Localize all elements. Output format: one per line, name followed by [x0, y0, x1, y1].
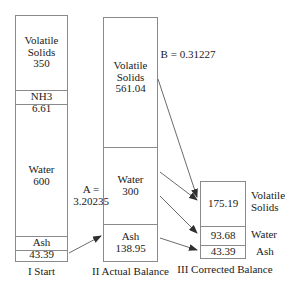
bar3-caption-line1: III Corrected [177, 263, 234, 275]
bar1-volatile-solids-label-line1: Volatile [24, 35, 58, 47]
bar1-divider-nh3-water [15, 104, 68, 105]
bar3-volatile-solids-value: 175.19 [208, 198, 238, 210]
bar3-volatile-solids-segment: 175.19 [200, 181, 246, 226]
bar2-volatile-solids-segment: Volatile Solids 561.04 [103, 50, 158, 105]
arrow-bar2-water-to-bar3-water [160, 196, 197, 233]
coefficient-b-line2: 0.31227 [180, 48, 216, 60]
bar1-ash-segment: Ash 43.39 [15, 236, 68, 262]
bar2-ash-value: 138.95 [115, 243, 145, 255]
bar2-caption-line2: Balance [134, 265, 169, 277]
arrow-a [69, 236, 101, 253]
bar1-nh3-segment: NH3 6.61 [15, 90, 68, 116]
bar1-volatile-solids-segment: Volatile Solids 350 [15, 15, 68, 90]
bar2-volatile-solids-label-line1: Volatile [113, 60, 147, 72]
coefficient-a-label: A = 3.20235 [67, 183, 115, 207]
coefficient-b-line1: B = [161, 48, 177, 60]
diagram-canvas: Volatile Solids 350 NH3 6.61 Water 600 A… [0, 0, 301, 304]
bar1-caption-text: I Start [28, 265, 55, 277]
bar3-volatile-solids-side-label-line2: Solids [251, 201, 279, 213]
arrow-b [158, 79, 197, 197]
arrow-bar2-water-to-bar3-vs [160, 172, 197, 200]
bar3-ash-side-label: Ash [256, 246, 300, 258]
bar1-volatile-solids-value: 350 [33, 58, 50, 70]
bar1-water-value: 600 [33, 176, 50, 188]
bar2-water-label: Water [118, 174, 144, 186]
bar2-volatile-solids-value: 561.04 [115, 83, 145, 95]
bar3-ash-segment: 43.39 [200, 245, 246, 259]
bar2-water-value: 300 [122, 186, 139, 198]
bar3-water-segment: 93.68 [200, 226, 246, 245]
bar3-caption: III Corrected Balance [175, 263, 275, 275]
coefficient-a-line2: 3.20235 [73, 195, 109, 207]
bar3-water-value: 93.68 [211, 230, 236, 242]
bar3-water-side-label-text: Water [251, 228, 277, 240]
bar3-volatile-solids-side-label-line1: Volatile [251, 189, 285, 201]
coefficient-b-label: B = 0.31227 [160, 48, 216, 60]
bar3-water-side-label: Water [251, 229, 299, 241]
bar1-divider-ash-bottom [15, 250, 68, 251]
bar3-volatile-solids-side-label: Volatile Solids [251, 190, 299, 213]
coefficient-a-line1: A = [83, 183, 99, 195]
bar3-caption-line2: Balance [237, 263, 272, 275]
bar2-caption-line1: II Actual [92, 265, 131, 277]
bar2-ash-segment: Ash 138.95 [103, 224, 158, 262]
bar2-caption: II Actual Balance [88, 265, 173, 277]
arrow-bar2-ash-to-bar3-ash [160, 238, 197, 250]
bar3-ash-side-label-text: Ash [256, 245, 274, 257]
bar3-ash-value: 43.39 [211, 246, 236, 258]
bar1-caption: I Start [15, 265, 68, 277]
bar1-water-segment: Water 600 [15, 116, 68, 236]
